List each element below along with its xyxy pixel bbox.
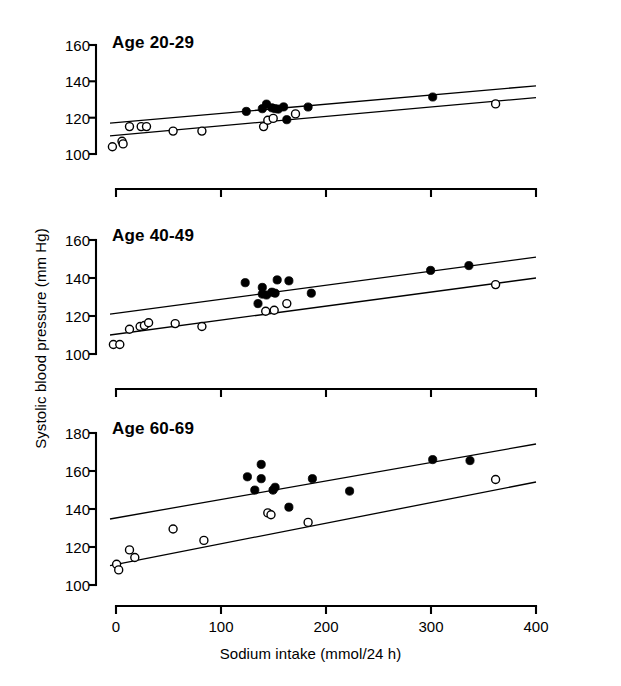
data-points-men	[243, 456, 474, 512]
panel-age-60-69: Age 60-69 180 160 140 120 100	[0, 403, 621, 618]
panel-age-20-29: Age 20-29 160 140 120 100	[0, 0, 621, 190]
figure-container: Systolic blood pressure (mm Hg) Age 20-2…	[0, 0, 621, 686]
panel-plot-area	[0, 403, 621, 618]
x-tick-label: 100	[201, 618, 241, 635]
panel-plot-area	[0, 203, 621, 393]
x-tick-label: 200	[306, 618, 346, 635]
x-axis-panel-1	[0, 183, 621, 203]
x-axis-label: Sodium intake (mmol/24 h)	[0, 645, 621, 662]
x-tick-label: 300	[411, 618, 451, 635]
data-points-men	[241, 262, 473, 308]
panel-age-40-49: Age 40-49 160 140 120 100	[0, 203, 621, 393]
panel-plot-area	[0, 0, 621, 190]
x-tick-label: 0	[96, 618, 136, 635]
x-axis-panel-2	[0, 383, 621, 403]
x-tick-label: 400	[516, 618, 556, 635]
data-points-women	[113, 476, 500, 574]
x-axis-main: 0 100 200 300 400	[0, 600, 621, 640]
